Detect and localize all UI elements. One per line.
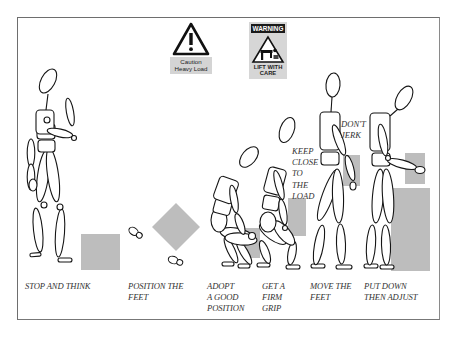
caption-line: FEET bbox=[310, 292, 351, 303]
caption-line: THEN ADJUST bbox=[364, 292, 417, 303]
callout-dont-jerk: DON'T JERK bbox=[341, 119, 366, 141]
caption-line: GET A bbox=[262, 281, 285, 292]
exclamation-triangle-icon bbox=[174, 24, 208, 54]
step-caption-firm-grip: GET A FIRM GRIP bbox=[262, 281, 285, 314]
caption-line: GRIP bbox=[262, 303, 285, 314]
caption-line: FEET bbox=[128, 292, 183, 303]
caption-line: POSITION bbox=[207, 303, 244, 314]
step-caption-adopt-position: ADOPT A GOOD POSITION bbox=[207, 281, 244, 314]
step-caption-put-down: PUT DOWN THEN ADJUST bbox=[364, 281, 417, 303]
callout-line: DON'T bbox=[341, 119, 366, 130]
callout-line: CLOSE bbox=[292, 157, 318, 168]
callout-keep-close: KEEP CLOSE TO THE LOAD bbox=[292, 146, 318, 202]
caution-line-1: Caution bbox=[170, 58, 212, 65]
warning-line-2: CARE bbox=[251, 70, 285, 76]
caution-sign-label: Caution Heavy Load bbox=[170, 57, 212, 74]
step-caption-move-feet: MOVE THE FEET bbox=[310, 281, 351, 303]
caption-line: ADOPT bbox=[207, 281, 244, 292]
step-caption-position-feet: POSITION THE FEET bbox=[128, 281, 183, 303]
callout-line: LOAD bbox=[292, 191, 318, 202]
callout-line: TO bbox=[292, 168, 318, 179]
warning-sign-label: LIFT WITH CARE bbox=[251, 64, 285, 77]
caution-line-2: Heavy Load bbox=[170, 65, 212, 72]
caption-line: FIRM bbox=[262, 292, 285, 303]
callout-line: KEEP bbox=[292, 146, 318, 157]
caption-line: A GOOD bbox=[207, 292, 244, 303]
step-caption-stop-and-think: STOP AND THINK bbox=[25, 281, 90, 292]
callout-line: JERK bbox=[341, 130, 366, 141]
caption-line: MOVE THE bbox=[310, 281, 351, 292]
mannequin-stop-and-think bbox=[27, 66, 76, 262]
warning-sign-header: WARNING bbox=[251, 24, 285, 33]
caption-line: PUT DOWN bbox=[364, 281, 417, 292]
caption-line: POSITION THE bbox=[128, 281, 183, 292]
caption-line: STOP AND THINK bbox=[25, 281, 90, 292]
callout-line: THE bbox=[292, 180, 318, 191]
